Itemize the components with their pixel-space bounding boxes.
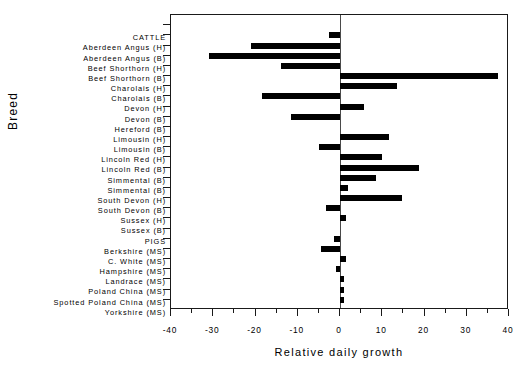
category-label: Berkshire (MS) — [24, 248, 166, 256]
y-axis-tick — [163, 136, 170, 137]
y-axis-tick — [163, 248, 170, 249]
category-label: Aberdeen Angus (B) — [24, 55, 166, 63]
y-axis-title: Breed — [6, 92, 20, 130]
bar — [340, 154, 382, 160]
category-label: Charolais (B) — [24, 95, 166, 103]
y-axis-tick — [163, 278, 170, 279]
bar — [340, 256, 346, 262]
x-axis-minor-tick — [191, 309, 192, 313]
x-axis-tick-label: 10 — [361, 325, 401, 335]
relative-daily-growth-chart: Breed CATTLEAberdeen Angus (H)Aberdeen A… — [0, 0, 528, 373]
category-label: CATTLE — [24, 34, 166, 42]
x-axis-tick — [424, 309, 425, 316]
x-axis-tick-label: 40 — [488, 325, 528, 335]
y-axis-tick — [163, 228, 170, 229]
category-label: Devon (B) — [24, 116, 166, 124]
y-axis-tick — [163, 95, 170, 96]
category-label: Poland China (MS) — [24, 288, 166, 296]
x-axis-minor-tick — [487, 309, 488, 313]
category-label: Lincoln Red (B) — [24, 166, 166, 174]
category-label: South Devon (H) — [24, 197, 166, 205]
category-label: Yorkshire (MS) — [24, 309, 166, 317]
x-axis-tick — [212, 309, 213, 316]
y-axis-tick — [163, 207, 170, 208]
y-axis-tick — [163, 258, 170, 259]
y-axis-tick — [163, 156, 170, 157]
x-axis-tick-label: -40 — [150, 325, 190, 335]
x-axis-tick-label: -10 — [277, 325, 317, 335]
x-axis-tick-label: 30 — [446, 325, 486, 335]
category-label: Limousin (H) — [24, 136, 166, 144]
bar — [340, 134, 389, 140]
y-axis-tick — [163, 187, 170, 188]
bar — [291, 114, 340, 120]
x-axis-tick-label: -30 — [192, 325, 232, 335]
bar — [340, 287, 344, 293]
bar — [340, 276, 344, 282]
bar — [340, 297, 344, 303]
x-axis-tick — [255, 309, 256, 316]
bar — [321, 246, 340, 252]
bar — [340, 73, 498, 79]
bar — [319, 144, 340, 150]
y-axis-tick — [163, 65, 170, 66]
category-label: Hampshire (MS) — [24, 268, 166, 276]
y-axis-tick — [163, 75, 170, 76]
x-axis-minor-tick — [402, 309, 403, 313]
x-axis-tick-label: 0 — [319, 325, 359, 335]
category-label: Sussex (H) — [24, 217, 166, 225]
category-label: Spotted Poland China (MS) — [24, 299, 166, 307]
bar — [340, 165, 419, 171]
y-axis-tick — [163, 24, 170, 25]
bar — [340, 175, 376, 181]
y-axis-tick — [163, 85, 170, 86]
category-label: Beef Shorthorn (H) — [24, 65, 166, 73]
y-axis-tick — [163, 106, 170, 107]
category-label: Limousin (B) — [24, 146, 166, 154]
plot-area — [170, 14, 508, 309]
x-axis-minor-tick — [233, 309, 234, 313]
y-axis-tick — [163, 217, 170, 218]
y-axis-tick — [163, 177, 170, 178]
x-axis-minor-tick — [276, 309, 277, 313]
bar — [326, 205, 340, 211]
zero-reference-line — [340, 15, 341, 308]
category-label: Lincoln Red (H) — [24, 156, 166, 164]
bar — [340, 195, 402, 201]
x-axis-title: Relative daily growth — [170, 346, 508, 358]
category-label: Simmental (B) — [24, 187, 166, 195]
y-axis-tick — [163, 197, 170, 198]
y-axis-tick — [163, 45, 170, 46]
category-label: Aberdeen Angus (H) — [24, 44, 166, 52]
x-axis-minor-tick — [445, 309, 446, 313]
bar — [340, 83, 397, 89]
bar — [340, 104, 364, 110]
bar — [340, 215, 346, 221]
x-axis-minor-tick — [360, 309, 361, 313]
x-axis-tick — [466, 309, 467, 316]
x-axis-tick-label: 20 — [404, 325, 444, 335]
y-axis-tick — [163, 34, 170, 35]
y-axis-tick — [163, 299, 170, 300]
category-label: Simmental (B) — [24, 177, 166, 185]
bar — [329, 32, 340, 38]
bar — [336, 266, 340, 272]
y-axis-tick — [163, 116, 170, 117]
category-label: Sussex (B) — [24, 227, 166, 235]
y-axis-tick — [163, 55, 170, 56]
y-axis-tick — [163, 146, 170, 147]
category-label: Landrace (MS) — [24, 278, 166, 286]
category-label: Charolais (H) — [24, 85, 166, 93]
bar — [334, 236, 340, 242]
category-label: Hereford (B) — [24, 126, 166, 134]
x-axis-tick-label: -20 — [235, 325, 275, 335]
y-axis-tick — [163, 167, 170, 168]
bar — [340, 185, 348, 191]
x-axis-tick — [170, 309, 171, 316]
y-axis-tick — [163, 268, 170, 269]
category-label: Devon (H) — [24, 105, 166, 113]
x-axis-tick — [297, 309, 298, 316]
bar — [262, 93, 340, 99]
x-axis-minor-tick — [318, 309, 319, 313]
y-axis-tick — [163, 289, 170, 290]
